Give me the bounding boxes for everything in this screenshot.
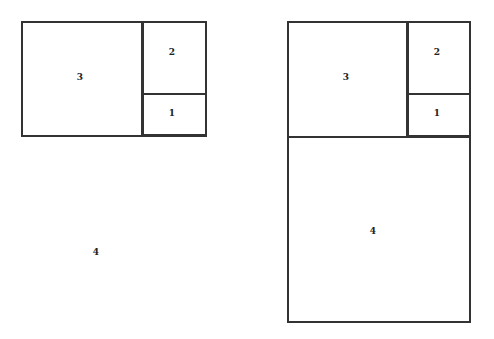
left-label-2: 2 (169, 48, 175, 57)
left-square-2 (141, 21, 207, 95)
left-label-1: 1 (169, 109, 175, 118)
left-label-4: 4 (93, 248, 99, 257)
right-square-4 (287, 136, 471, 323)
left-label-3: 3 (77, 73, 83, 82)
right-square-2 (406, 21, 471, 95)
right-label-2: 2 (434, 48, 440, 57)
right-label-1: 1 (434, 109, 440, 118)
right-label-3: 3 (343, 73, 349, 82)
right-label-4: 4 (370, 227, 376, 236)
